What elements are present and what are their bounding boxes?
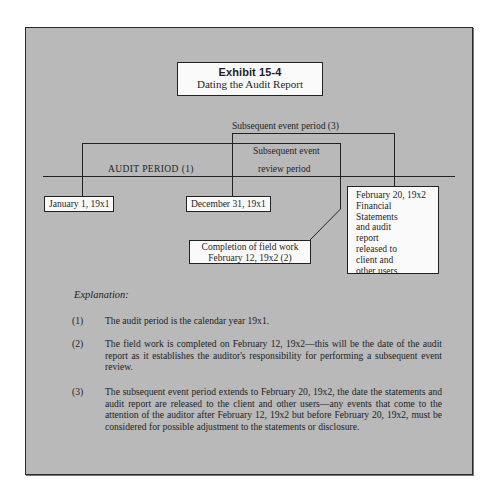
release-line: client and bbox=[356, 255, 438, 266]
review-period-label-line2: review period bbox=[258, 164, 311, 174]
release-line: and audit bbox=[356, 222, 438, 233]
release-line: released to bbox=[356, 244, 438, 255]
release-line: report bbox=[356, 233, 438, 244]
release-line: other users. bbox=[356, 266, 438, 277]
item-number: (3) bbox=[72, 386, 83, 398]
item-number: (2) bbox=[72, 338, 83, 350]
release-line: Financial bbox=[356, 201, 438, 212]
completion-line2: February 12, 19x2 (2) bbox=[190, 253, 310, 264]
explanation-heading: Explanation: bbox=[74, 289, 129, 300]
item-text: The subsequent event period extends to F… bbox=[105, 386, 442, 432]
completion-line1: Completion of field work bbox=[190, 242, 310, 253]
release-line: February 20, 19x2 bbox=[356, 190, 438, 201]
release-date-box: February 20, 19x2 Financial Statements a… bbox=[347, 186, 439, 274]
start-date-box: January 1, 19x1 bbox=[44, 196, 114, 212]
item-text: The audit period is the calendar year 19… bbox=[105, 315, 442, 327]
completion-date-box: Completion of field work February 12, 19… bbox=[189, 240, 311, 264]
audit-period-label: AUDIT PERIOD (1) bbox=[108, 164, 194, 174]
subsequent-event-period-label: Subsequent event period (3) bbox=[232, 121, 339, 131]
item-number: (1) bbox=[72, 315, 83, 327]
review-period-label-line1: Subsequent event bbox=[253, 146, 320, 156]
item-text: The field work is completed on February … bbox=[105, 338, 442, 373]
year-end-date-box: December 31, 19x1 bbox=[186, 196, 271, 212]
release-line: Statements bbox=[356, 212, 438, 223]
